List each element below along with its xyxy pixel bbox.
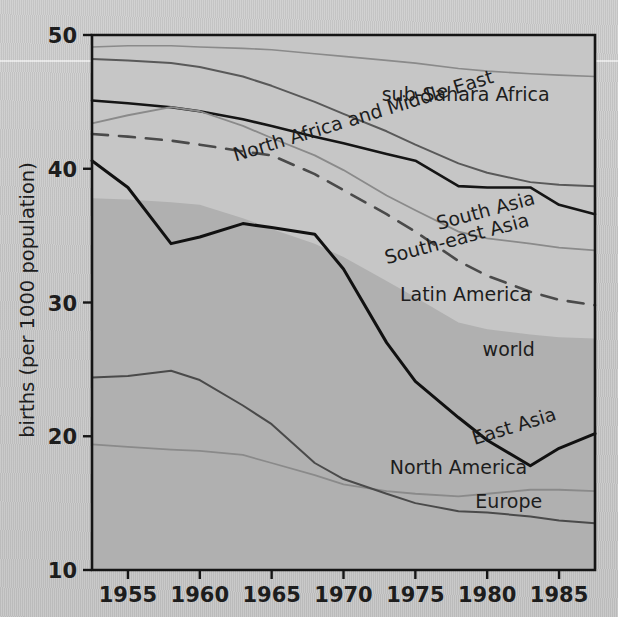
y-axis-title: births (per 1000 population) <box>16 162 39 438</box>
x-tick-label-1985: 1985 <box>530 583 588 607</box>
x-axis-tick-labels: 1955196019651970197519801985 <box>99 583 589 607</box>
y-axis-ticks <box>83 35 92 570</box>
y-axis-tick-labels: 1020304050 <box>48 24 77 583</box>
x-tick-label-1965: 1965 <box>242 583 300 607</box>
x-axis-ticks <box>128 570 559 579</box>
label-europe: Europe <box>475 490 542 512</box>
y-tick-label-20: 20 <box>48 425 77 449</box>
x-tick-label-1960: 1960 <box>171 583 229 607</box>
label-latin-america: Latin America <box>400 283 531 305</box>
y-tick-label-50: 50 <box>48 24 77 48</box>
y-tick-label-30: 30 <box>48 292 77 316</box>
x-tick-label-1975: 1975 <box>386 583 444 607</box>
x-tick-label-1980: 1980 <box>458 583 516 607</box>
y-tick-label-10: 10 <box>48 559 77 583</box>
label-north-america: North America <box>390 456 528 478</box>
births-per-1000-line-chart: 1955196019651970197519801985 1020304050 … <box>0 0 618 617</box>
x-tick-label-1970: 1970 <box>314 583 372 607</box>
y-tick-label-40: 40 <box>48 158 77 182</box>
x-tick-label-1955: 1955 <box>99 583 157 607</box>
label-world: world <box>483 338 535 360</box>
chart-page: 1955196019651970197519801985 1020304050 … <box>0 0 618 617</box>
